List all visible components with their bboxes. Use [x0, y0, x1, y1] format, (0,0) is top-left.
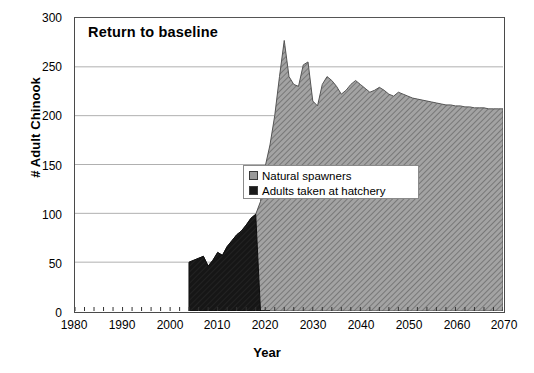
- x-axis-label: Year: [0, 345, 534, 360]
- y-tick-250: 250: [16, 62, 62, 72]
- y-tick-200: 200: [16, 111, 62, 121]
- x-tick-2070: 2070: [474, 318, 534, 332]
- legend-label-natural: Natural spawners: [262, 170, 351, 182]
- legend-item-natural-spawners: Natural spawners: [249, 168, 414, 183]
- chart-legend: Natural spawners Adults taken at hatcher…: [243, 165, 419, 199]
- legend-label-hatchery: Adults taken at hatchery: [262, 185, 385, 197]
- legend-swatch-icon-natural: [249, 171, 258, 180]
- legend-item-adults-hatchery: Adults taken at hatchery: [249, 183, 414, 198]
- y-tick-150: 150: [16, 161, 62, 171]
- chart-container: # Adult Chinook Year 300 250 200 150 100…: [0, 0, 534, 373]
- y-tick-0: 0: [16, 308, 62, 318]
- y-tick-300: 300: [16, 13, 62, 23]
- y-tick-50: 50: [16, 259, 62, 269]
- y-tick-100: 100: [16, 210, 62, 220]
- chart-title: Return to baseline: [88, 24, 218, 40]
- legend-swatch-icon-hatchery: [249, 186, 258, 195]
